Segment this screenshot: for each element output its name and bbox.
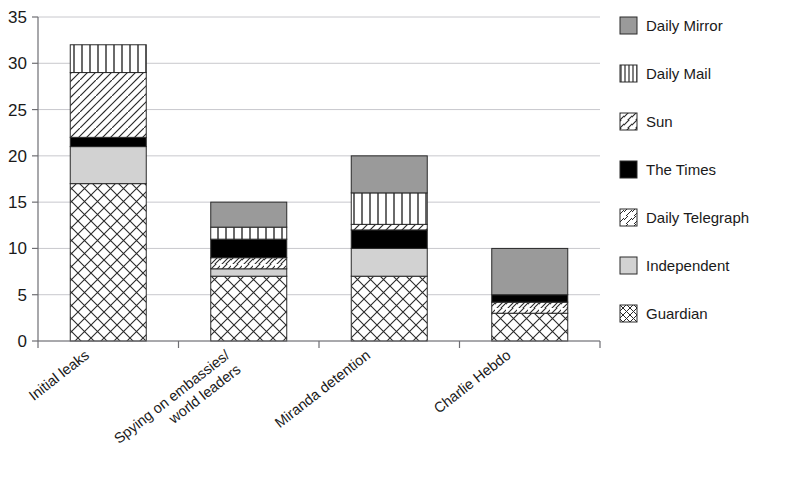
legend-swatch [620, 17, 637, 34]
bar-stack [492, 248, 568, 341]
bar-segment [351, 276, 427, 341]
bar-segment [70, 73, 146, 138]
stacked-bar-chart: 05101520253035 Initial leaksSpying on em… [0, 0, 795, 496]
bar-segment [211, 269, 287, 276]
legend-swatch [620, 257, 637, 274]
legend-label: Daily Mirror [646, 17, 723, 34]
y-axis-tick-label: 10 [8, 239, 27, 258]
legend-label: Independent [646, 257, 730, 274]
bar-segment [492, 295, 568, 302]
bar-stack [70, 45, 146, 341]
legend-label: Daily Mail [646, 65, 711, 82]
legend-swatch [620, 113, 637, 130]
bar-segment [211, 227, 287, 239]
y-axis-tick-label: 20 [8, 147, 27, 166]
bar-segment [351, 230, 427, 249]
bar-segment [70, 184, 146, 341]
legend-item-independent[interactable]: Independent [620, 257, 730, 275]
bar-segment [70, 45, 146, 73]
legend-label: The Times [646, 161, 716, 178]
bar-segment [351, 156, 427, 193]
bar-segment [211, 202, 287, 227]
bar-segment [351, 193, 427, 224]
bar-segment [211, 239, 287, 258]
legend-label: Guardian [646, 305, 708, 322]
bar-stack [211, 202, 287, 341]
bar-segment [351, 224, 427, 230]
bar-segment [211, 276, 287, 341]
bar-segment [211, 258, 287, 269]
legend-item-daily-mail[interactable]: Daily Mail [620, 65, 711, 83]
legend-item-guardian[interactable]: Guardian [620, 305, 708, 323]
y-axis-tick-label: 25 [8, 101, 27, 120]
legend-swatch [620, 161, 637, 178]
bar-segment [492, 248, 568, 294]
bar-segment [492, 313, 568, 341]
bar-stack [351, 156, 427, 341]
y-axis-tick-label: 30 [8, 54, 27, 73]
legend-swatch [620, 209, 637, 226]
y-axis-tick-label: 0 [18, 332, 27, 351]
legend-item-daily-mirror[interactable]: Daily Mirror [620, 17, 723, 35]
bar-segment [492, 302, 568, 313]
y-axis-tick-label: 5 [18, 286, 27, 305]
legend-item-sun[interactable]: Sun [620, 113, 673, 131]
bar-segment [351, 248, 427, 276]
legend-label: Sun [646, 113, 673, 130]
chart-container: 05101520253035 Initial leaksSpying on em… [0, 0, 795, 496]
y-axis-tick-label: 15 [8, 193, 27, 212]
y-axis-tick-label: 35 [8, 8, 27, 27]
bar-segment [70, 147, 146, 184]
legend-label: Daily Telegraph [646, 209, 749, 226]
legend-swatch [620, 65, 637, 82]
legend-swatch [620, 305, 637, 322]
legend-item-the-times[interactable]: The Times [620, 161, 716, 179]
bar-segment [70, 137, 146, 146]
